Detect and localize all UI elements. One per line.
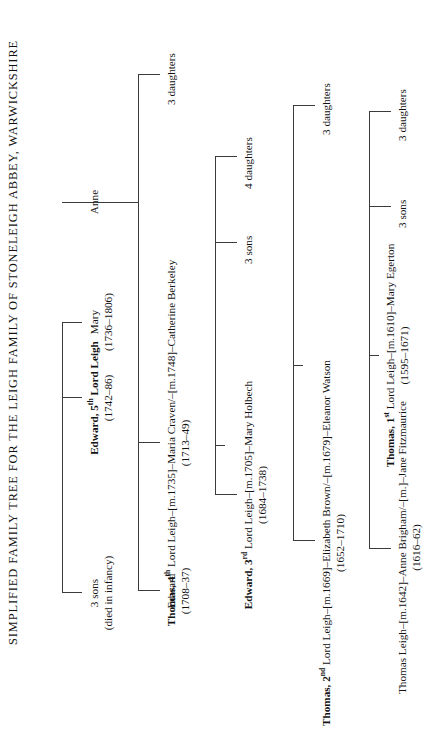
leaf-gen1-sons: 3 sons (395, 200, 409, 228)
node-thomas-2nd-ordinal: nd (318, 668, 327, 676)
connector-gen5-branch-mary (62, 322, 82, 323)
connector-root-stem (369, 355, 379, 356)
connector-gen1-branch-sons (369, 206, 391, 207)
leaf-gen3-sons-label: 3 sons (242, 236, 254, 264)
connector-anne-line (138, 203, 139, 273)
connector-gen2-branch-thomas2nd (293, 540, 315, 541)
leaf-gen3-sons: 3 sons (241, 236, 255, 264)
connector-gen4-branch-thomas4th (138, 442, 160, 443)
node-thomas-4th-name-suffix: Lord Leigh–[m.1735]–Maria Craven/–[m.174… (165, 260, 177, 570)
node-edward-1708: Edward (1708–37) (164, 546, 193, 636)
connector-gen5-branch-edward5th (62, 397, 82, 398)
node-mary-1736: Mary (1736–1806) (87, 272, 116, 372)
connector-gen2-stem (293, 365, 303, 366)
node-thomas-2nd-name-prefix: Thomas, 2 (320, 676, 332, 726)
page-title: SIMPLIFIED FAMILY TREE FOR THE LEIGH FAM… (6, 40, 21, 645)
leaf-gen3-daughters-label: 4 daughters (242, 137, 254, 189)
connector-gen1-branch-thomas (369, 548, 391, 549)
connector-gen5-spine (62, 323, 63, 593)
leaf-gen2-daughters: 3 daughters (319, 83, 333, 135)
connector-gen3-stem (215, 445, 225, 446)
connector-gen1-spine (369, 112, 370, 549)
connector-gen5-branch-sons-infancy (62, 592, 82, 593)
node-thomas-leigh-name: Thomas Leigh–[m.1642]–Anne Brigham/–[m.]… (395, 380, 409, 715)
leaf-gen4-daughters: 3 daughters (164, 53, 178, 105)
leaf-gen3-daughters: 4 daughters (241, 137, 255, 189)
node-3-sons-label: 3 sons (87, 540, 101, 646)
node-edward-3rd-dates: (1684–1738) (255, 370, 269, 620)
leaf-gen2-daughters-label: 3 daughters (320, 83, 332, 135)
node-thomas-2nd-dates: (1652–1710) (333, 343, 347, 730)
connector-gen3-branch-edward3rd (215, 494, 237, 495)
node-thomas-2nd-lord-leigh: Thomas, 2nd Lord Leigh–[m.1669]–Elizabet… (319, 343, 348, 730)
node-edward-3rd-ordinal: rd (240, 552, 249, 560)
node-anne: Anne (87, 167, 101, 237)
node-edward-1708-name: Edward (164, 546, 178, 636)
node-mary-name: Mary (87, 272, 101, 372)
node-edward-3rd-name-prefix: Edward, 3 (242, 559, 254, 609)
node-thomas-leigh-1616: Thomas Leigh–[m.1642]–Anne Brigham/–[m.]… (395, 380, 424, 715)
node-edward-5th-ordinal: th (86, 398, 95, 405)
node-edward-3rd-lord-leigh: Edward, 3rd Lord Leigh–[m.1705]–Mary Hol… (241, 370, 270, 620)
connector-gen3-spine (215, 157, 216, 495)
connector-gen2-branch-daughters (293, 105, 315, 106)
node-thomas-2nd-name: Thomas, 2nd Lord Leigh–[m.1669]–Elizabet… (319, 343, 333, 730)
node-3-sons-died-in-infancy: 3 sons (died in infancy) (87, 540, 116, 646)
connector-gen1-branch-daughters (369, 111, 391, 112)
node-3-sons-note: (died in infancy) (101, 540, 115, 646)
node-edward-5th-name-prefix: Edward, 5 (88, 405, 100, 455)
node-thomas-2nd-name-suffix: Lord Leigh–[m.1669]–Elizabeth Brown/–[m.… (320, 360, 332, 668)
leaf-gen4-daughters-label: 3 daughters (165, 53, 177, 105)
connector-gen4-spine (138, 75, 139, 591)
connector-gen4-branch-edward1708 (138, 590, 160, 591)
leaf-gen1-daughters-label: 3 daughters (396, 89, 408, 141)
node-mary-dates: (1736–1806) (101, 272, 115, 372)
node-edward-1708-dates: (1708–37) (178, 546, 192, 636)
connector-gen3-branch-daughters4 (215, 156, 237, 157)
leaf-gen1-sons-label: 3 sons (396, 200, 408, 228)
node-thomas-leigh-dates: (1616–62) (409, 380, 423, 715)
connector-gen4-branch-daughters3 (138, 74, 160, 75)
node-edward-3rd-name: Edward, 3rd Lord Leigh–[m.1705]–Mary Hol… (241, 370, 255, 620)
node-edward-3rd-name-suffix: Lord Leigh–[m.1705]–Mary Holbech (242, 381, 254, 552)
node-thomas-1st-ordinal: st (382, 412, 391, 418)
connector-gen2-spine (293, 106, 294, 541)
leaf-gen1-daughters: 3 daughters (395, 89, 409, 141)
node-anne-name: Anne (87, 167, 101, 237)
connector-gen3-branch-sons3 (215, 242, 237, 243)
